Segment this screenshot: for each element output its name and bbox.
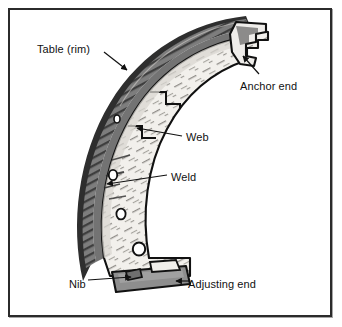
label-anchor-end: Anchor end [240, 81, 297, 92]
label-weld: Weld [171, 172, 196, 183]
nib-part [126, 269, 142, 280]
web-hole [116, 209, 125, 220]
label-nib: Nib [69, 279, 86, 290]
web-hole [114, 115, 120, 123]
brake-shoe-figure: Table (rim) Anchor end Web Weld Nib Adju… [0, 0, 342, 327]
label-web: Web [186, 132, 209, 143]
web-part [102, 30, 268, 276]
label-adjusting-end: Adjusting end [188, 279, 256, 290]
label-table-rim: Table (rim) [37, 44, 90, 55]
table-rim-leader [104, 52, 127, 70]
web-hole [109, 170, 117, 180]
web-hole [133, 242, 145, 255]
